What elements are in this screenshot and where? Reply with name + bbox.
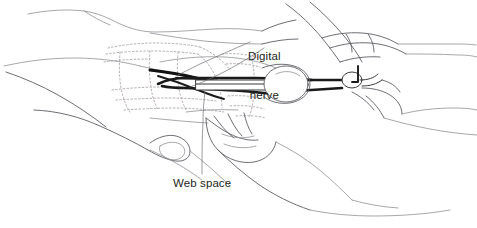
label-digital-nerve-line2: nerve [248, 89, 281, 102]
label-web-space: Web space [173, 177, 231, 190]
surgeon-hand-outline [262, 2, 477, 135]
illustration-canvas: Digital nerve Web space [0, 0, 477, 228]
label-digital-nerve-line1: Digital [248, 50, 281, 63]
digital-nerve-block-illustration [0, 0, 477, 228]
label-digital-nerve: Digital nerve [248, 24, 281, 128]
patient-lower-fingers [150, 113, 450, 216]
